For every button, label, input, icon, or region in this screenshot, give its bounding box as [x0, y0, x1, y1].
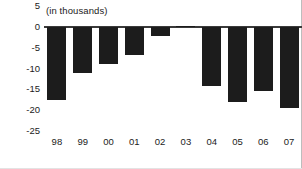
- y-axis-tick-label: -10: [0, 64, 40, 74]
- x-axis-tick-label: 02: [155, 136, 166, 148]
- bar-99: [73, 27, 92, 74]
- figure-bottom-rule: [0, 168, 302, 169]
- y-axis-tick-label: -15: [0, 84, 40, 94]
- x-axis-tick-label: 00: [103, 136, 114, 148]
- bar-07: [280, 27, 299, 108]
- x-axis: 98990001020304050607: [44, 136, 302, 156]
- bar-chart: (in thousands) 50-5-10-15-20-25 98990001…: [0, 0, 302, 169]
- bar-03: [176, 26, 195, 27]
- x-axis-tick-label: 07: [284, 136, 295, 148]
- bar-06: [254, 27, 273, 92]
- bar-05: [228, 27, 247, 102]
- y-axis-tick-label: -20: [0, 105, 40, 115]
- x-axis-tick-label: 04: [206, 136, 217, 148]
- y-axis-tick-label: 0: [0, 22, 40, 32]
- x-axis-tick-label: 98: [52, 136, 63, 148]
- x-axis-tick-label: 99: [77, 136, 88, 148]
- y-axis: 50-5-10-15-20-25: [0, 0, 40, 169]
- plot-area: [44, 0, 302, 132]
- y-axis-tick-label: 5: [0, 1, 40, 11]
- bar-98: [47, 27, 66, 100]
- x-axis-tick-label: 06: [258, 136, 269, 148]
- bar-01: [125, 27, 144, 55]
- x-axis-tick-label: 03: [181, 136, 192, 148]
- bar-02: [151, 27, 170, 36]
- bar-00: [99, 27, 118, 65]
- y-axis-tick-label: -25: [0, 126, 40, 136]
- bar-04: [202, 27, 221, 86]
- x-axis-tick-label: 05: [232, 136, 243, 148]
- y-axis-tick-label: -5: [0, 43, 40, 53]
- x-axis-tick-label: 01: [129, 136, 140, 148]
